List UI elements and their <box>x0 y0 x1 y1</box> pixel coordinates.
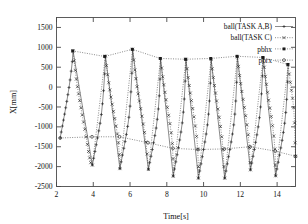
series-ball-task-c- <box>72 48 297 180</box>
chart-svg: 2468101214 150010005000-500-1000-1500-20… <box>0 0 308 224</box>
chart-legend: ball(TASK A,B)ball(TASK C)pbhxpbrx <box>224 22 293 65</box>
y-tick-label: -2000 <box>35 162 53 171</box>
x-tick-label: 4 <box>91 190 95 199</box>
legend-label: pbhx <box>257 45 272 54</box>
legend-label: pbrx <box>258 56 272 65</box>
x-axis-label: Time[s] <box>163 212 189 221</box>
x-tick-label: 12 <box>237 190 245 199</box>
y-tick-label: 500 <box>41 63 53 72</box>
y-tick-label: -2500 <box>35 182 53 191</box>
x-tick-label: 14 <box>273 190 281 199</box>
x-tick-label: 6 <box>128 190 132 199</box>
x-tick-label: 2 <box>55 190 59 199</box>
legend-label: ball(TASK A,B) <box>224 22 273 31</box>
y-axis-label: X[mm] <box>9 90 18 114</box>
y-tick-label: 1000 <box>37 43 52 52</box>
chart-figure: 2468101214 150010005000-500-1000-1500-20… <box>0 0 308 224</box>
legend-label: ball(TASK C) <box>231 33 273 42</box>
y-tick-label: -500 <box>39 103 53 112</box>
y-tick-label: 0 <box>49 83 53 92</box>
y-tick-label: 1500 <box>37 23 52 32</box>
data-series-group <box>59 48 297 180</box>
x-tick-label: 8 <box>165 190 169 199</box>
y-tick-label: -1000 <box>35 122 53 131</box>
y-tick-label: -1500 <box>35 142 53 151</box>
x-tick-label: 10 <box>200 190 208 199</box>
